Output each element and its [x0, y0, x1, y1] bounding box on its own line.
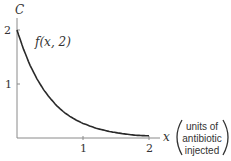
x-tick-label-2: 2	[146, 142, 153, 155]
y-tick-label-2: 2	[4, 24, 11, 37]
y-tick-label-1: 1	[5, 78, 12, 91]
x-unit-note-line3: injected	[185, 145, 219, 156]
curve-label: f(x, 2)	[34, 35, 71, 49]
y-axis-label: C	[15, 3, 24, 17]
x-axis-label: x	[163, 130, 170, 144]
x-unit-note-line1: units of	[186, 121, 218, 132]
right-paren	[223, 120, 228, 155]
x-tick-label-1: 1	[80, 142, 87, 155]
chart: C 2 1 1 2 f(x, 2) x units of antibiotic …	[0, 0, 231, 161]
x-unit-note-line2: antibiotic	[182, 133, 221, 144]
left-paren	[177, 120, 182, 155]
